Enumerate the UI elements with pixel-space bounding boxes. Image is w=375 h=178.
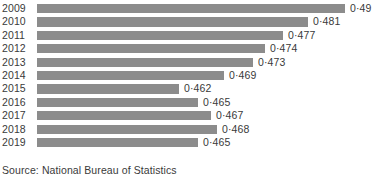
year-label: 2012 xyxy=(2,42,34,55)
bar[interactable] xyxy=(37,138,198,147)
chart-row: 20130·473 xyxy=(0,56,375,69)
bar-chart: 20090·4920100·48120110·47720120·47420130… xyxy=(0,0,375,178)
bar[interactable] xyxy=(37,125,217,134)
chart-row: 20110·477 xyxy=(0,29,375,42)
bar-value-label: 0·467 xyxy=(216,109,243,122)
chart-row: 20190·465 xyxy=(0,136,375,149)
bar[interactable] xyxy=(37,44,265,53)
bar-area: 0·477 xyxy=(37,29,375,42)
bar[interactable] xyxy=(37,4,345,13)
bar-value-label: 0·469 xyxy=(229,69,256,82)
bar-area: 0·481 xyxy=(37,15,375,28)
bar-area: 0·49 xyxy=(37,2,375,15)
bar-area: 0·469 xyxy=(37,69,375,82)
chart-row: 20090·49 xyxy=(0,2,375,15)
bar[interactable] xyxy=(37,84,179,93)
chart-row: 20150·462 xyxy=(0,82,375,95)
year-label: 2009 xyxy=(2,2,34,15)
bar[interactable] xyxy=(37,31,283,40)
bar-value-label: 0·477 xyxy=(288,29,315,42)
chart-row: 20180·468 xyxy=(0,123,375,136)
chart-row: 20160·465 xyxy=(0,96,375,109)
bar-area: 0·473 xyxy=(37,56,375,69)
bar-area: 0·467 xyxy=(37,109,375,122)
bar[interactable] xyxy=(37,17,308,26)
source-note: Source: National Bureau of Statistics xyxy=(2,164,177,177)
chart-rows: 20090·4920100·48120110·47720120·47420130… xyxy=(0,2,375,149)
year-label: 2013 xyxy=(2,56,34,69)
bar-value-label: 0·462 xyxy=(184,82,211,95)
bar-area: 0·462 xyxy=(37,82,375,95)
bar-value-label: 0·465 xyxy=(203,136,230,149)
bar-area: 0·465 xyxy=(37,136,375,149)
bar-area: 0·474 xyxy=(37,42,375,55)
year-label: 2011 xyxy=(2,29,34,42)
bar-value-label: 0·465 xyxy=(203,96,230,109)
bar[interactable] xyxy=(37,98,198,107)
chart-row: 20100·481 xyxy=(0,15,375,28)
bar-area: 0·468 xyxy=(37,123,375,136)
year-label: 2017 xyxy=(2,109,34,122)
year-label: 2019 xyxy=(2,136,34,149)
bar-value-label: 0·481 xyxy=(313,15,340,28)
bar[interactable] xyxy=(37,111,211,120)
chart-row: 20140·469 xyxy=(0,69,375,82)
year-label: 2016 xyxy=(2,96,34,109)
bar-area: 0·465 xyxy=(37,96,375,109)
bar-value-label: 0·468 xyxy=(222,123,249,136)
bar-value-label: 0·473 xyxy=(258,56,285,69)
bar[interactable] xyxy=(37,58,253,67)
bar-value-label: 0·49 xyxy=(350,2,371,15)
year-label: 2015 xyxy=(2,82,34,95)
year-label: 2010 xyxy=(2,15,34,28)
bar-value-label: 0·474 xyxy=(270,42,297,55)
bar[interactable] xyxy=(37,71,224,80)
year-label: 2014 xyxy=(2,69,34,82)
chart-row: 20120·474 xyxy=(0,42,375,55)
chart-row: 20170·467 xyxy=(0,109,375,122)
year-label: 2018 xyxy=(2,123,34,136)
